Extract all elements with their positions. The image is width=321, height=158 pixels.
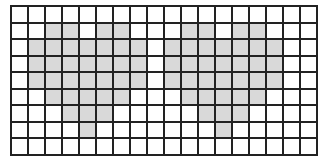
grid-cell	[284, 90, 301, 107]
left-heart-cell	[80, 90, 97, 107]
grid-cell	[301, 139, 318, 156]
grid-cell	[216, 7, 233, 24]
grid-cell	[63, 7, 80, 24]
right-heart-cell	[250, 57, 267, 74]
right-heart-cell	[199, 90, 216, 107]
grid-cell	[148, 40, 165, 57]
left-heart-cell	[29, 40, 46, 57]
right-heart-cell	[250, 90, 267, 107]
grid-cell	[148, 7, 165, 24]
left-heart-cell	[63, 90, 80, 107]
grid-cell	[12, 106, 29, 123]
right-heart-cell	[182, 57, 199, 74]
grid-cell	[80, 24, 97, 41]
grid-cell	[182, 7, 199, 24]
grid-cell	[233, 7, 250, 24]
grid-cell	[29, 123, 46, 140]
left-heart-cell	[63, 106, 80, 123]
grid-cell	[301, 90, 318, 107]
grid-cell	[114, 123, 131, 140]
left-heart-cell	[46, 57, 63, 74]
grid-cell	[182, 106, 199, 123]
grid-cell	[301, 24, 318, 41]
right-heart-cell	[233, 106, 250, 123]
left-heart-cell	[80, 73, 97, 90]
left-heart-cell	[131, 73, 148, 90]
right-heart-cell	[250, 73, 267, 90]
grid-cell	[12, 139, 29, 156]
grid-cell	[250, 123, 267, 140]
grid-cell	[165, 123, 182, 140]
right-heart-cell	[199, 40, 216, 57]
shaded-grid-diagram	[10, 5, 318, 156]
grid-cell	[284, 24, 301, 41]
right-heart-cell	[233, 57, 250, 74]
left-heart-cell	[63, 24, 80, 41]
grid-cell	[97, 139, 114, 156]
grid-cell	[97, 7, 114, 24]
grid-cell	[148, 57, 165, 74]
grid-cell	[267, 106, 284, 123]
grid-cell	[216, 139, 233, 156]
grid-cell	[301, 40, 318, 57]
grid-cell	[46, 106, 63, 123]
grid-cell	[267, 123, 284, 140]
left-heart-cell	[29, 73, 46, 90]
grid-cell	[267, 24, 284, 41]
grid-cell	[114, 106, 131, 123]
left-heart-cell	[46, 24, 63, 41]
grid-cell	[114, 7, 131, 24]
right-heart-cell	[267, 40, 284, 57]
right-heart-cell	[199, 57, 216, 74]
right-heart-cell	[250, 24, 267, 41]
grid-cell	[63, 123, 80, 140]
grid-cell	[233, 123, 250, 140]
left-heart-cell	[46, 40, 63, 57]
grid-cell	[250, 139, 267, 156]
grid-cell	[199, 7, 216, 24]
right-heart-cell	[165, 73, 182, 90]
left-heart-cell	[97, 40, 114, 57]
left-heart-cell	[80, 106, 97, 123]
right-heart-cell	[199, 73, 216, 90]
grid-cell	[29, 90, 46, 107]
grid-cell	[199, 123, 216, 140]
grid-cell	[267, 90, 284, 107]
left-heart-cell	[80, 123, 97, 140]
grid-cell	[80, 7, 97, 24]
grid-cell	[233, 139, 250, 156]
grid-cell	[301, 57, 318, 74]
grid-cell	[97, 123, 114, 140]
grid-cell	[80, 139, 97, 156]
grid-cell	[46, 7, 63, 24]
grid-cell	[284, 123, 301, 140]
right-heart-cell	[182, 24, 199, 41]
grid-cell	[182, 123, 199, 140]
grid-cell	[250, 7, 267, 24]
right-heart-cell	[233, 73, 250, 90]
right-heart-cell	[182, 73, 199, 90]
grid-cell	[250, 106, 267, 123]
right-heart-cell	[216, 123, 233, 140]
grid-cell	[131, 90, 148, 107]
grid-cell	[182, 139, 199, 156]
grid-cell	[216, 24, 233, 41]
grid-cell	[29, 7, 46, 24]
grid-cell	[131, 106, 148, 123]
right-heart-cell	[216, 57, 233, 74]
right-heart-cell	[199, 24, 216, 41]
left-heart-cell	[131, 40, 148, 57]
grid-cell	[165, 139, 182, 156]
grid-cell	[29, 24, 46, 41]
right-heart-cell	[199, 106, 216, 123]
grid-cell	[284, 106, 301, 123]
grid-cell	[284, 40, 301, 57]
grid-cell	[148, 90, 165, 107]
left-heart-cell	[114, 90, 131, 107]
grid-cell	[301, 73, 318, 90]
grid-cell	[12, 57, 29, 74]
right-heart-cell	[216, 90, 233, 107]
grid-cell	[131, 139, 148, 156]
left-heart-cell	[63, 40, 80, 57]
left-heart-cell	[114, 24, 131, 41]
